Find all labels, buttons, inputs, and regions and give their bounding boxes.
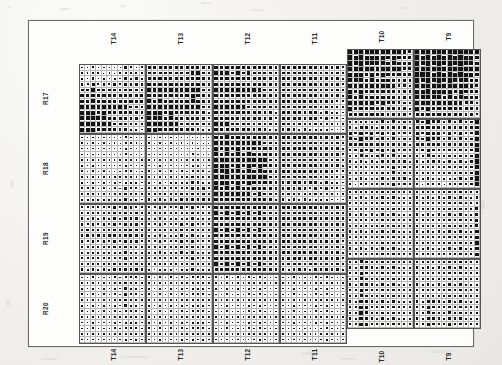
value-square-symbol (263, 158, 266, 161)
value-square-symbol (225, 262, 228, 265)
value-square-symbol (86, 94, 89, 97)
value-square-symbol (154, 159, 155, 160)
value-square-symbol (287, 257, 289, 259)
value-square-symbol (164, 246, 166, 248)
value-square-symbol (147, 83, 150, 86)
value-square-symbol (247, 240, 250, 243)
value-square-symbol (416, 266, 418, 268)
value-square-symbol (135, 268, 137, 270)
value-square-symbol (197, 206, 199, 208)
value-square-symbol (165, 339, 166, 340)
value-square-symbol (197, 170, 199, 172)
value-square-symbol (197, 257, 199, 259)
value-square-symbol (416, 236, 418, 238)
value-square-symbol (87, 182, 88, 183)
value-square-symbol (275, 193, 277, 195)
value-square-symbol (443, 272, 445, 274)
value-square-symbol (252, 158, 255, 161)
value-square-symbol (165, 148, 166, 149)
value-square-symbol (119, 263, 121, 265)
value-square-symbol (298, 176, 300, 178)
value-square-symbol (348, 50, 352, 54)
value-square-symbol (170, 246, 172, 248)
value-square-symbol (225, 66, 228, 69)
value-square-symbol (443, 208, 445, 210)
value-square-symbol (237, 316, 238, 317)
value-square-symbol (87, 294, 88, 295)
value-square-symbol (140, 94, 143, 97)
section-cell (207, 127, 212, 133)
value-square-symbol (92, 263, 94, 265)
value-square-symbol (336, 164, 338, 166)
value-square-symbol (141, 240, 143, 242)
value-square-symbol (192, 316, 194, 318)
value-square-symbol (103, 257, 105, 259)
value-square-symbol (309, 106, 311, 108)
value-square-symbol (159, 246, 161, 248)
value-square-symbol (242, 105, 245, 108)
value-square-symbol (381, 306, 383, 308)
value-square-symbol (191, 181, 193, 183)
value-square-symbol (359, 55, 363, 59)
value-square-symbol (337, 322, 338, 323)
value-square-symbol (365, 266, 367, 268)
value-square-symbol (269, 83, 272, 86)
value-square-symbol (130, 78, 132, 80)
value-square-symbol (293, 89, 296, 92)
value-square-symbol (275, 170, 277, 172)
value-square-symbol (159, 142, 160, 143)
value-square-symbol (220, 122, 223, 125)
value-square-symbol (298, 212, 300, 214)
value-square-symbol (81, 328, 82, 329)
value-square-symbol (231, 268, 234, 271)
value-square-symbol (108, 94, 111, 97)
value-square-symbol (214, 158, 218, 162)
value-square-symbol (135, 288, 137, 290)
value-square-symbol (325, 94, 328, 97)
value-square-symbol (342, 72, 344, 74)
value-square-symbol (453, 56, 457, 60)
value-square-symbol (169, 122, 172, 125)
value-square-symbol (470, 272, 472, 274)
value-square-symbol (469, 67, 473, 71)
value-square-symbol (309, 223, 311, 225)
value-square-symbol (159, 217, 161, 219)
value-square-symbol (365, 289, 367, 291)
value-square-symbol (264, 305, 265, 306)
value-square-symbol (448, 208, 450, 210)
value-square-symbol (269, 72, 272, 75)
value-square-symbol (381, 120, 384, 123)
value-square-symbol (387, 166, 389, 168)
value-square-symbol (114, 154, 115, 155)
value-square-symbol (354, 56, 358, 60)
value-square-symbol (360, 126, 363, 129)
value-square-symbol (421, 107, 424, 110)
value-square-symbol (153, 88, 156, 91)
value-square-symbol (359, 137, 362, 140)
value-square-symbol (248, 276, 250, 278)
value-square-symbol (103, 288, 105, 290)
value-square-symbol (275, 316, 276, 317)
value-square-symbol (263, 240, 266, 243)
value-square-symbol (147, 122, 151, 126)
value-square-symbol (264, 282, 265, 283)
value-square-symbol (359, 95, 363, 99)
value-square-symbol (409, 208, 411, 210)
value-square-symbol (169, 116, 173, 120)
value-square-symbol (416, 253, 418, 255)
value-square-symbol (148, 77, 151, 80)
value-square-symbol (448, 172, 450, 174)
value-square-symbol (164, 235, 166, 237)
value-square-symbol (325, 66, 328, 69)
value-square-symbol (232, 299, 233, 300)
value-square-symbol (470, 284, 472, 286)
value-square-symbol (315, 293, 317, 295)
value-square-symbol (103, 277, 104, 278)
value-square-symbol (97, 252, 99, 254)
value-square-symbol (365, 202, 367, 204)
value-square-symbol (470, 208, 472, 210)
value-square-symbol (426, 72, 430, 76)
value-square-symbol (309, 217, 311, 219)
value-square-symbol (282, 181, 284, 183)
value-square-symbol (398, 96, 401, 99)
